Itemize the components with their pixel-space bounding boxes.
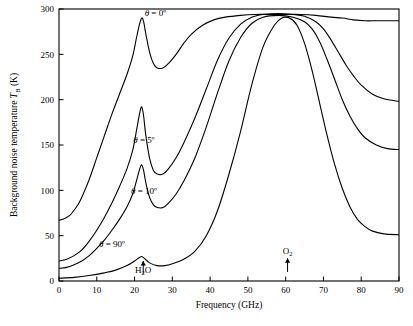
x-tick-label: 0 — [57, 285, 62, 295]
annotation-theta-5: θ = 5º — [133, 135, 154, 145]
x-tick-label: 50 — [243, 285, 253, 295]
svg-text:O2: O2 — [283, 246, 293, 257]
x-tick-label: 80 — [357, 285, 367, 295]
annotation-theta-10: θ = 10º — [131, 186, 157, 196]
svg-text:θ = 90º: θ = 90º — [99, 239, 125, 249]
svg-text:Background noise temperature T: Background noise temperature TB (K) — [9, 73, 21, 217]
series-line-2 — [59, 15, 399, 268]
annotation-o2-label: O2 — [283, 246, 293, 257]
y-tick-label: 300 — [41, 4, 55, 14]
svg-text:θ = 0º: θ = 0º — [145, 8, 166, 18]
y-tick-label: 50 — [45, 231, 55, 241]
y-tick-label: 150 — [41, 140, 55, 150]
svg-text:θ = 10º: θ = 10º — [131, 186, 157, 196]
x-tick-label: 90 — [395, 285, 405, 295]
annotation-theta-0: θ = 0º — [145, 8, 166, 18]
chart-svg: 0102030405060708090050100150200250300Fre… — [0, 0, 413, 326]
o2-arrow — [285, 258, 290, 272]
x-axis-label: Frequency (GHz) — [196, 300, 263, 311]
x-tick-label: 60 — [281, 285, 291, 295]
y-tick-label: 250 — [41, 50, 55, 60]
x-tick-label: 30 — [168, 285, 178, 295]
y-tick-label: 100 — [41, 186, 55, 196]
y-tick-label: 0 — [50, 276, 55, 286]
chart-figure: 0102030405060708090050100150200250300Fre… — [0, 0, 413, 326]
y-axis-label: Background noise temperature TB (K) — [9, 73, 21, 217]
plot-area: 0102030405060708090050100150200250300Fre… — [0, 0, 413, 326]
x-tick-label: 70 — [319, 285, 329, 295]
series-line-0 — [59, 14, 399, 220]
annotation-theta-90: θ = 90º — [99, 239, 125, 249]
x-tick-label: 10 — [92, 285, 102, 295]
x-tick-label: 40 — [206, 285, 216, 295]
svg-text:θ = 5º: θ = 5º — [133, 135, 154, 145]
x-tick-label: 20 — [130, 285, 140, 295]
y-tick-label: 200 — [41, 95, 55, 105]
series-line-1 — [59, 14, 399, 262]
